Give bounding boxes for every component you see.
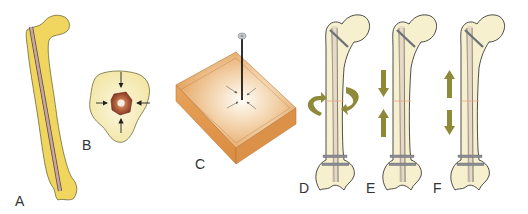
diagram-canvas [0,0,528,214]
panel-label-e: E [366,181,375,195]
panel-label-d: D [299,181,309,195]
distraction-arrow-down [444,110,455,135]
panel-c-block-with-pin [176,33,296,164]
locked-femur-e [383,15,437,190]
panel-f-distraction [444,15,505,190]
distraction-arrow-up [444,70,455,98]
panel-label-f: F [433,181,442,195]
panel-label-b: B [82,138,91,152]
rotation-arrow-left [308,92,327,116]
panel-a-femur-with-nail [26,15,77,200]
compression-arrow-up [378,109,389,137]
panel-label-a: A [15,194,24,208]
locked-femur-f [451,15,505,190]
panel-d-torsion [308,15,370,190]
compression-arrow-down [378,70,389,97]
panel-e-compression [378,15,437,190]
panel-b-cross-section [90,71,150,142]
panel-label-c: C [195,157,205,171]
locked-femur-d [316,15,370,190]
